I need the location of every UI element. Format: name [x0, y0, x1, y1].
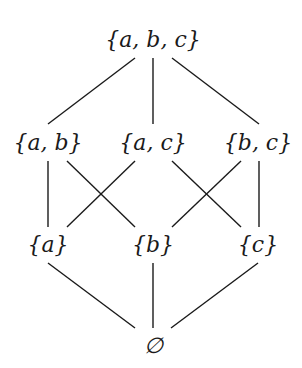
edge-abc-ab — [48, 58, 135, 124]
edge-a-empty — [48, 263, 135, 328]
hasse-edges — [0, 0, 302, 368]
node-b: {b} — [132, 234, 174, 256]
node-ac: {a, c} — [119, 132, 186, 154]
node-a: {a} — [27, 234, 68, 256]
node-ab: {a, b} — [13, 132, 82, 154]
edge-c-empty — [171, 263, 258, 328]
node-abc: {a, b, c} — [105, 29, 201, 51]
node-bc: {b, c} — [224, 132, 292, 154]
edge-abc-bc — [172, 58, 259, 124]
node-empty: ∅ — [144, 335, 163, 357]
node-c: {c} — [238, 234, 278, 256]
